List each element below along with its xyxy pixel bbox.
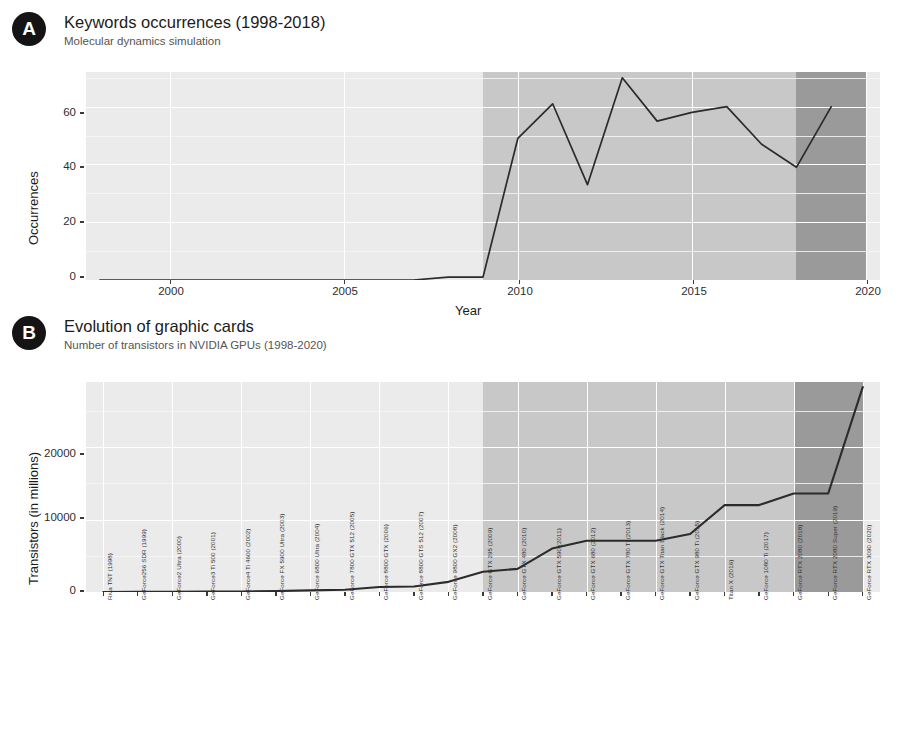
panel-b-xtick-mark xyxy=(206,592,207,596)
panel-b-xtick-mark xyxy=(482,592,483,596)
panel-a-xtick-2010: 2010 xyxy=(489,285,551,297)
panel-b-category-label: GeForce GTX 980 Ti (2015) xyxy=(693,521,700,600)
panel-a-xtick-mark xyxy=(519,280,520,284)
panel-b-category-label: GeForce 6800 Ultra (2004) xyxy=(313,524,320,600)
panel-b-xtick-mark xyxy=(689,592,690,596)
panel-b-category-label: GeForce GTX 780 Ti (2013) xyxy=(624,521,631,600)
panel-b-xtick-mark xyxy=(586,592,587,596)
panel-b-category-label: GeForce 8800 GTS 512 (2007) xyxy=(417,512,424,600)
panel-b-category-label: Titan X (2016) xyxy=(727,560,734,600)
panel-b-category-label: GeForce GTX 590 (2011) xyxy=(555,528,562,600)
panel-b-category-label: GeForce4 Ti 4600 (2002) xyxy=(244,529,251,600)
panel-b-xtick-mark xyxy=(172,592,173,596)
panel-b-category-label: GeForce 9800 GX2 (2008) xyxy=(451,524,458,600)
panel-b-xtick-mark xyxy=(517,592,518,596)
panel-b-category-label: GeForce GTX 480 (2010) xyxy=(520,528,527,600)
panel-a-xtick-mark xyxy=(867,280,868,284)
panel-a-ytick-20: 20 xyxy=(42,215,76,227)
panel-b-xtick-mark xyxy=(758,592,759,596)
panel-b-xtick-mark xyxy=(241,592,242,596)
panel-b-ytick-mark xyxy=(80,517,84,519)
panel-b-xtick-mark xyxy=(275,592,276,596)
panel-b-xtick-mark xyxy=(862,592,863,596)
panel-b-xtick-mark xyxy=(551,592,552,596)
panel-b-ytick-0: 0 xyxy=(34,584,76,596)
panel-a-xtick-mark xyxy=(170,280,171,284)
panel-b-ytick-mark xyxy=(80,590,84,592)
panel-a-xtick-mark xyxy=(344,280,345,284)
panel-a-subtitle: Molecular dynamics simulation xyxy=(64,35,221,47)
panel-b-title: Evolution of graphic cards xyxy=(64,317,254,336)
panel-b-category-label: GeForce GTX 680 (2012) xyxy=(589,528,596,600)
panel-b-category-label: GeForce RTX 2080 Super (2019) xyxy=(831,506,838,600)
panel-b-category-label: GeForce 8800 GTX (2006) xyxy=(382,524,389,600)
panel-b-xtick-mark xyxy=(724,592,725,596)
panel-b-ytick-mark xyxy=(80,453,84,455)
panel-a-plot-area xyxy=(86,72,880,280)
panel-b-ytick-20000: 20000 xyxy=(34,447,76,459)
panel-b-category-label: Riva TNT (1998) xyxy=(106,553,113,600)
panel-a-header: A Keywords occurrences (1998-2018) Molec… xyxy=(12,12,512,52)
panel-b-xtick-mark xyxy=(828,592,829,596)
panel-b-category-label: GeForce GTX Titan Black (2014) xyxy=(658,507,665,600)
panel-b-category-label: GeForce FX 5900 Ultra (2003) xyxy=(278,514,285,600)
panel-b-category-label: GeForce256 SDR (1999) xyxy=(140,529,147,600)
panel-b-category-label: GeForce3 Ti 500 (2001) xyxy=(209,532,216,600)
panel-a-xtick-2015: 2015 xyxy=(663,285,725,297)
panel-a-title: Keywords occurrences (1998-2018) xyxy=(64,13,325,32)
panel-b-xtick-mark xyxy=(620,592,621,596)
panel-a-xtick-2020: 2020 xyxy=(837,285,899,297)
panel-a-y-axis-title: Occurrences xyxy=(26,171,41,245)
panel-b-header: B Evolution of graphic cards Number of t… xyxy=(12,316,532,358)
panel-b-category-label: GeForce RTX 3090 (2020) xyxy=(865,525,872,600)
panel-b-category-label: GeForce2 Ultra (2000) xyxy=(175,536,182,600)
panel-b-xtick-mark xyxy=(310,592,311,596)
panel-b-xtick-mark xyxy=(655,592,656,596)
panel-a-ytick-60: 60 xyxy=(42,106,76,118)
panel-a-xtick-mark xyxy=(693,280,694,284)
panel-a-badge: A xyxy=(12,12,46,46)
panel-b-xtick-mark xyxy=(379,592,380,596)
panel-b-category-label: GeForce 1080 Ti (2017) xyxy=(762,532,769,600)
panel-b-subtitle: Number of transistors in NVIDIA GPUs (19… xyxy=(64,339,327,351)
panel-b-xtick-mark xyxy=(137,592,138,596)
panel-b-plot-area xyxy=(86,382,880,592)
panel-a-ytick-0: 0 xyxy=(42,270,76,282)
panel-a-ytick-mark xyxy=(80,221,84,223)
panel-b-category-label: GeForce GTX 295 (2009) xyxy=(486,528,493,600)
panel-a-ytick-mark xyxy=(80,166,84,168)
panel-b-xtick-mark xyxy=(413,592,414,596)
panel-a-ytick-40: 40 xyxy=(42,160,76,172)
panel-b-ytick-10000: 10000 xyxy=(34,511,76,523)
figure-root: A Keywords occurrences (1998-2018) Molec… xyxy=(0,0,911,731)
panel-b-xtick-mark xyxy=(103,592,104,596)
panel-a-ytick-mark xyxy=(80,276,84,278)
panel-b-xtick-mark xyxy=(793,592,794,596)
panel-b-category-label: GeForce 7800 GTX 512 (2005) xyxy=(348,512,355,600)
panel-b-xtick-mark xyxy=(344,592,345,596)
series-line xyxy=(86,72,880,280)
panel-a-xtick-2005: 2005 xyxy=(314,285,376,297)
panel-b-badge: B xyxy=(12,316,46,350)
panel-a-xtick-2000: 2000 xyxy=(140,285,202,297)
series-line xyxy=(86,382,880,592)
panel-a-ytick-mark xyxy=(80,112,84,114)
panel-b-category-label: GeForce RTX 2080 (2018) xyxy=(796,525,803,600)
panel-b-xtick-mark xyxy=(448,592,449,596)
